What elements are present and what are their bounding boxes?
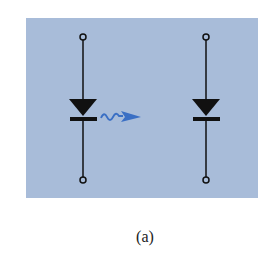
diode-cathode-bar: [70, 117, 97, 121]
terminal-bottom-left: [80, 177, 86, 183]
receiver-diode: [192, 34, 220, 183]
figure-caption: (a): [0, 228, 272, 246]
diode-triangle-icon: [69, 99, 97, 116]
diode-cathode-bar: [193, 117, 220, 121]
light-signal-arrow-icon: [101, 111, 141, 122]
emitter-diode: [69, 34, 97, 183]
terminal-top-right: [203, 34, 209, 40]
diode-triangle-icon: [192, 99, 220, 116]
terminal-bottom-right: [203, 177, 209, 183]
terminal-top-left: [80, 34, 86, 40]
optocoupler-diagram: [0, 0, 272, 260]
